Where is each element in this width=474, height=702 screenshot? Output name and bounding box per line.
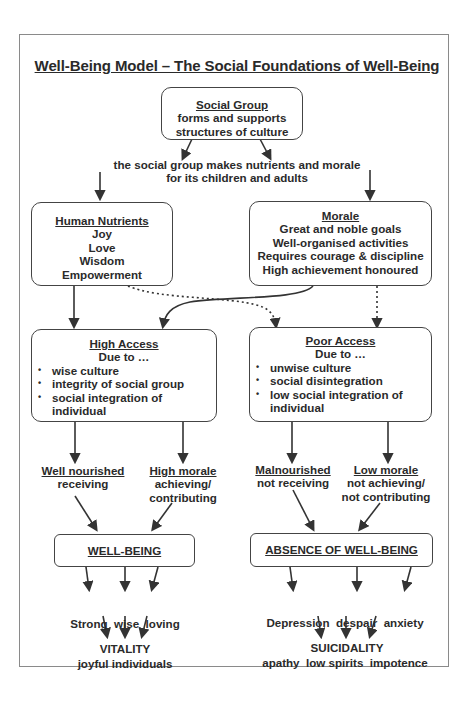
social-group-line: forms and supports [162,111,302,124]
bullet-item: integrity of social group [32,377,216,390]
trait-line: Depression despair anxiety [258,616,432,629]
well-being-traits: Strong wise loving joyful individuals [60,590,190,684]
bullet-item: social disintegration [250,374,431,387]
bullet-item: low social integration of individual [250,388,431,415]
well-being-box: WELL-BEING [54,534,195,567]
low-morale-sub: not achieving/ [336,476,436,489]
bullet-item: unwise culture [250,361,431,374]
connector-line: the social group makes nutrients and mor… [100,158,374,171]
poor-access-box: Poor Access Due to … unwise culture soci… [249,327,432,422]
high-access-bullets: wise culture integrity of social group s… [32,364,216,418]
low-morale-sub: not contributing [336,490,436,503]
morale-item: High achievement honoured [250,263,431,276]
social-group-box: Social Group forms and supports structur… [161,87,303,140]
trait-line: apathy low spirits impotence [258,656,432,669]
malnourished-heading: Malnourished [252,463,334,476]
bullet-item: social integration of individual [32,391,216,418]
well-nourished-label: Well nourished receiving [34,464,132,491]
vitality-label: VITALITY [75,642,175,655]
nutrient-item: Empowerment [32,268,172,281]
morale-item: Requires courage & discipline [250,249,431,262]
well-nourished-sub: receiving [34,477,132,490]
human-nutrients-box: Human Nutrients Joy Love Wisdom Empowerm… [31,202,173,286]
malnourished-sub: not receiving [252,476,334,489]
low-morale-label: Low morale not achieving/ not contributi… [336,463,436,503]
trait-line: Strong wise loving [60,617,190,630]
morale-item: Well-organised activities [250,236,431,249]
poor-access-heading: Poor Access [250,334,431,347]
well-being-heading: WELL-BEING [55,544,194,557]
absence-heading: ABSENCE OF WELL-BEING [251,543,432,556]
morale-heading: Morale [250,209,431,222]
poor-access-bullets: unwise culture social disintegration low… [250,361,431,415]
morale-box: Morale Great and noble goals Well-organi… [249,201,432,286]
nutrient-item: Love [32,241,172,254]
high-morale-heading: High morale [138,464,228,477]
suicidality-label: SUICIDALITY [297,641,397,654]
high-access-heading: High Access [32,337,216,350]
poor-access-subheading: Due to … [250,347,431,360]
connector-text: the social group makes nutrients and mor… [100,158,374,185]
bullet-item: wise culture [32,364,216,377]
nutrient-item: Wisdom [32,254,172,267]
high-morale-sub: achieving/ [138,477,228,490]
nutrient-item: Joy [32,227,172,240]
absence-box: ABSENCE OF WELL-BEING [250,533,433,567]
high-access-subheading: Due to … [32,350,216,363]
high-morale-label: High morale achieving/ contributing [138,464,228,504]
trait-line: joyful individuals [60,657,190,670]
well-nourished-heading: Well nourished [34,464,132,477]
low-morale-heading: Low morale [336,463,436,476]
connector-line: for its children and adults [100,171,374,184]
social-group-heading: Social Group [162,98,302,111]
high-access-box: High Access Due to … wise culture integr… [31,329,217,422]
social-group-line: structures of culture [162,125,302,138]
morale-item: Great and noble goals [250,222,431,235]
absence-traits: Depression despair anxiety apathy low sp… [258,589,432,683]
high-morale-sub: contributing [138,491,228,504]
malnourished-label: Malnourished not receiving [252,463,334,490]
human-nutrients-heading: Human Nutrients [32,214,172,227]
